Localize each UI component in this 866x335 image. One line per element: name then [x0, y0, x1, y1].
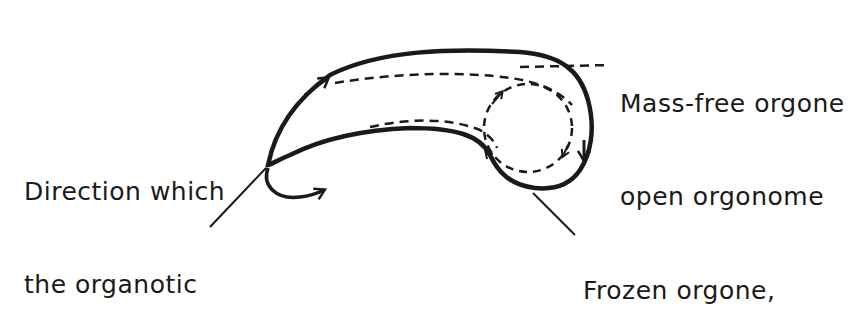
forced-direction-arrow: [267, 168, 324, 197]
label-mass-free-line-1: Mass-free orgone: [620, 88, 845, 119]
label-frozen-line-1: Frozen orgone,: [583, 275, 806, 306]
loop-arrow-right: [563, 145, 568, 156]
label-mass-free: Mass-free orgone open orgonome: [620, 26, 845, 243]
label-direction-line-2: the organotic: [24, 269, 225, 300]
label-mass-free-line-2: open orgonome: [620, 181, 845, 212]
flow-arrow-upper-left: [305, 78, 328, 95]
loop-arrow-top: [492, 92, 502, 104]
leader-frozen: [533, 193, 575, 235]
label-frozen: Frozen orgone, closed orgonome membrane: [583, 213, 806, 335]
dashed-flow-upper: [335, 74, 572, 105]
label-direction-line-1: Direction which: [24, 176, 225, 207]
label-direction: Direction which the organotic excitation…: [24, 114, 225, 335]
